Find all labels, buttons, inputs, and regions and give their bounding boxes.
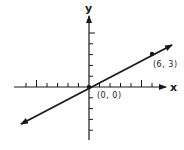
y-axis-ticks [89, 33, 95, 130]
point-label: (6, 3) [153, 60, 178, 69]
y-axis [89, 16, 95, 140]
origin-label: (0, 0) [97, 91, 122, 100]
y-axis-label: y [85, 2, 92, 15]
point-6-3 [150, 52, 154, 56]
origin-point [87, 85, 91, 89]
plotted-line [21, 45, 172, 124]
coordinate-plane: y x (0, 0) (6, 3) [0, 0, 184, 150]
x-axis-label: x [170, 81, 177, 94]
